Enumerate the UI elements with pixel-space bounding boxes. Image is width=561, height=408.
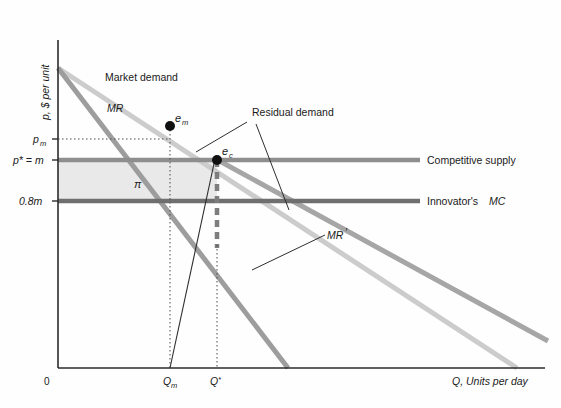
xtick-label-qm: Q m [163, 375, 177, 390]
point-em-main: e [175, 112, 181, 124]
ytick-label-pstar-m: p* = m [12, 154, 44, 166]
residual-demand-curve [214, 158, 548, 341]
ytick-pm-main: p [32, 133, 39, 145]
xtick-qstar-subscript: * [218, 375, 222, 384]
point-ec-main: e [222, 145, 228, 157]
competitive-supply-label: Competitive supply [427, 154, 516, 166]
point-e-c [212, 155, 222, 165]
economics-diagram: p, $ per unit Q, Units per day 0 p m p* … [0, 0, 561, 408]
mr-prime-main: MR [327, 229, 344, 241]
figure-container: p, $ per unit Q, Units per day 0 p m p* … [0, 0, 561, 408]
point-ec-subscript: c [229, 151, 233, 160]
profit-pi-label: π [134, 178, 142, 190]
point-em-subscript: m [182, 118, 188, 127]
mr-prime-leader-line [252, 235, 325, 270]
innovator-mc-prefix: Innovator's [427, 195, 478, 207]
residual-demand-leader-line-2 [256, 124, 289, 210]
residual-demand-label: Residual demand [252, 106, 334, 118]
innovator-mc-italic: MC [489, 195, 506, 207]
origin-label: 0 [44, 376, 50, 387]
xtick-qm-main: Q [163, 375, 171, 387]
ytick-pm-subscript: m [40, 139, 46, 148]
ytick-label-pm: p m [32, 133, 46, 148]
mr-prime-label: MR ′ [327, 226, 348, 241]
xtick-qstar-main: Q [210, 375, 218, 387]
point-e-m [165, 121, 175, 131]
ytick-label-08m: 0.8m [19, 195, 43, 207]
x-axis-label: Q, Units per day [452, 375, 529, 387]
innovator-mc-label: Innovator's MC [427, 195, 506, 207]
point-label-e-m: e m [175, 112, 188, 127]
xtick-label-qstar: Q * [210, 375, 222, 387]
marginal-revenue-label: MR [107, 102, 124, 114]
market-demand-label: Market demand [105, 71, 178, 83]
y-axis-label: p, $ per unit [39, 63, 51, 121]
xtick-qm-subscript: m [171, 381, 177, 390]
